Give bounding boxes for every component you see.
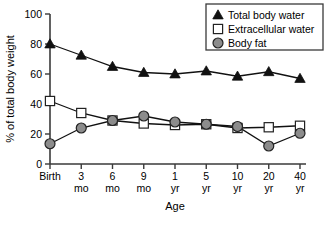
datapoint-marker-square: [45, 96, 54, 105]
datapoint-marker-square: [264, 123, 273, 132]
x-tick-label: 3: [78, 170, 84, 182]
x-tick-label-unit: yr: [264, 182, 273, 194]
datapoint-marker-circle: [139, 111, 149, 121]
datapoint-marker-circle: [264, 141, 274, 151]
datapoint-marker-triangle: [201, 66, 211, 75]
x-tick-label: 6: [110, 170, 116, 182]
legend-label: Body fat: [228, 37, 267, 49]
x-tick-label-unit: mo: [136, 182, 151, 194]
legend-2-marker-circle: [213, 38, 223, 48]
legend-1-marker-square: [213, 24, 222, 33]
legend: Total body waterExtracellular waterBody …: [206, 4, 323, 50]
x-tick-label-unit: yr: [171, 182, 180, 194]
y-tick-label: 20: [30, 128, 42, 140]
x-tick-label-unit: mo: [74, 182, 89, 194]
x-tick-label-unit: mo: [105, 182, 120, 194]
x-tick-label: 5: [203, 170, 209, 182]
y-axis-title: % of total body weight: [4, 35, 16, 143]
chart-figure: 020406080100Birth3mo6mo9mo1yr5yr10yr20yr…: [0, 0, 327, 231]
body-composition-line-chart: 020406080100Birth3mo6mo9mo1yr5yr10yr20yr…: [0, 0, 327, 231]
x-tick-label: 10: [232, 170, 244, 182]
datapoint-marker-circle: [233, 122, 243, 132]
x-tick-label-unit: yr: [233, 182, 242, 194]
datapoint-marker-circle: [295, 128, 305, 138]
datapoint-marker-triangle: [264, 67, 274, 76]
y-tick-label: 80: [30, 38, 42, 50]
x-tick-label: 1: [172, 170, 178, 182]
x-axis-title: Age: [165, 200, 185, 212]
x-tick-label: Birth: [39, 170, 61, 182]
datapoint-marker-circle: [201, 119, 211, 129]
y-tick-label: 0: [36, 158, 42, 170]
y-tick-label: 40: [30, 98, 42, 110]
x-tick-label: 20: [263, 170, 275, 182]
datapoint-marker-circle: [76, 123, 86, 133]
x-tick-label: 9: [141, 170, 147, 182]
x-tick-label-unit: yr: [296, 182, 305, 194]
y-tick-label: 60: [30, 68, 42, 80]
datapoint-marker-square: [77, 108, 86, 117]
legend-label: Total body water: [228, 9, 305, 21]
datapoint-marker-circle: [108, 116, 118, 126]
datapoint-marker-circle: [170, 117, 180, 127]
legend-label: Extracellular water: [228, 23, 315, 35]
x-tick-label: 40: [294, 170, 306, 182]
datapoint-marker-circle: [45, 139, 55, 149]
x-tick-label-unit: yr: [202, 182, 211, 194]
y-tick-label: 100: [24, 8, 42, 20]
